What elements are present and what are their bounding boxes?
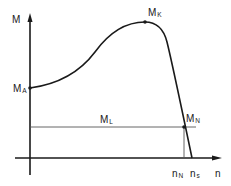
y-axis-label: M xyxy=(12,15,21,25)
x-axis-label: n xyxy=(215,169,221,179)
start-torque-label: MA xyxy=(13,84,27,95)
rated-torque-label: MN xyxy=(186,114,200,125)
torque-curve xyxy=(30,22,192,158)
rated-speed-label: nN xyxy=(172,169,183,180)
start-torque-dot xyxy=(28,86,32,90)
sync-speed-label: ns xyxy=(190,169,200,180)
breakdown-torque-dot xyxy=(143,20,147,24)
torque-speed-diagram: M n MA MK MN ML nN ns xyxy=(0,0,231,186)
y-axis-arrow-icon xyxy=(28,13,33,22)
x-axis-arrow-icon xyxy=(212,156,222,161)
breakdown-torque-label: MK xyxy=(148,8,162,19)
diagram-canvas xyxy=(0,0,231,186)
rated-torque-dot xyxy=(182,125,186,129)
load-torque-label: ML xyxy=(100,115,113,126)
